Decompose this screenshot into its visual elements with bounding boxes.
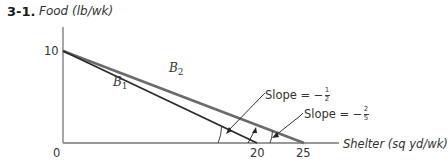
angle-arc-b2: [270, 131, 273, 143]
slope1-annotation: Slope = − 12: [265, 87, 330, 103]
origin-label: 0: [53, 146, 60, 160]
budget-line-b1: [63, 51, 257, 143]
slope2-annotation: Slope = − 25: [304, 106, 369, 122]
angle-arc-b1: [218, 127, 222, 143]
slope2-leader: [276, 113, 303, 135]
b2-label: B2: [169, 61, 184, 77]
y-tick-label-10: 10: [44, 44, 59, 58]
angle-arrowhead-b1: [252, 127, 257, 133]
x-tick-label-25: 25: [296, 146, 311, 160]
x-tick-label-20: 20: [250, 146, 265, 160]
b1-label: B1: [113, 75, 128, 91]
x-axis-label: Shelter (sq yd/wk): [343, 137, 448, 151]
